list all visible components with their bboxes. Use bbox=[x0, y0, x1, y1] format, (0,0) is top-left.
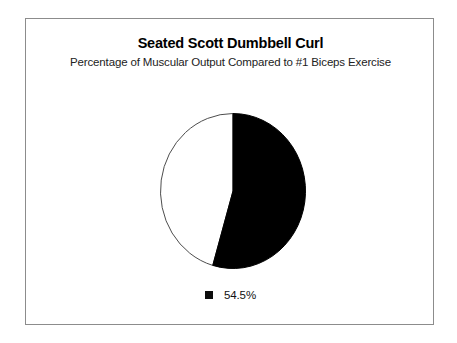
pie-chart bbox=[160, 113, 306, 269]
chart-title: Seated Scott Dumbbell Curl bbox=[26, 35, 435, 51]
chart-page: Seated Scott Dumbbell Curl Percentage of… bbox=[0, 0, 457, 343]
chart-subtitle: Percentage of Muscular Output Compared t… bbox=[26, 56, 435, 68]
legend-item-label: 54.5% bbox=[224, 289, 256, 301]
legend-item: 54.5% bbox=[205, 289, 256, 301]
black-square-icon bbox=[205, 291, 213, 299]
pie-chart-svg bbox=[160, 113, 306, 269]
chart-frame: Seated Scott Dumbbell Curl Percentage of… bbox=[25, 18, 434, 325]
chart-legend: 54.5% bbox=[26, 289, 435, 301]
